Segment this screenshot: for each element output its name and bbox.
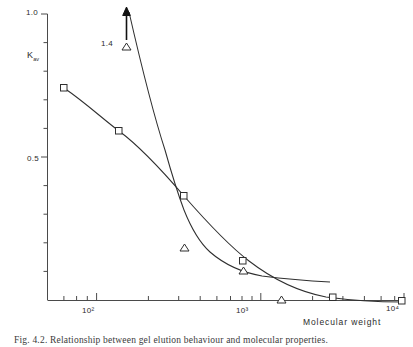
data-point-square — [61, 85, 68, 92]
data-point-triangle — [180, 244, 189, 251]
x-tick-label-10000: 10⁴ — [386, 304, 399, 313]
figure-container: Kav 1.0 0.5 10² 10³ 10⁴ Molecular weight… — [0, 0, 413, 347]
offscale-up-arrow-icon — [123, 7, 131, 40]
series-square-line — [64, 88, 402, 302]
series-square-markers — [61, 85, 406, 305]
data-point-square — [240, 258, 247, 265]
x-axis-title: Molecular weight — [303, 317, 381, 327]
data-point-square — [330, 294, 337, 301]
axis-lines — [48, 14, 405, 301]
data-point-square — [116, 128, 123, 135]
figure-caption: Fig. 4.2. Relationship between gel eluti… — [0, 335, 413, 347]
series-triangle-line — [129, 12, 330, 282]
data-point-triangle — [277, 296, 286, 303]
offscale-value-label: 1.4 — [101, 39, 113, 48]
data-point-triangle-offscale — [122, 43, 131, 50]
y-tick-label-0: 0.5 — [27, 154, 39, 163]
y-tick-label-1: 1.0 — [26, 8, 38, 17]
series-triangle-markers — [122, 43, 286, 303]
data-point-square — [181, 193, 188, 200]
data-point-square — [399, 298, 406, 305]
y-axis-title: Kav — [27, 50, 39, 62]
x-axis-ticks — [64, 293, 404, 301]
x-tick-label-100: 10² — [82, 306, 94, 315]
chart-canvas — [0, 0, 413, 347]
x-tick-label-1000: 10³ — [236, 306, 248, 315]
y-axis-ticks — [41, 14, 48, 271]
